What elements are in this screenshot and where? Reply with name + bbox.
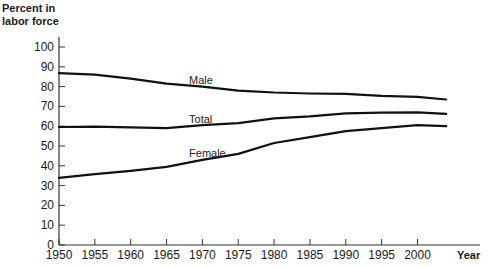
y-tick-label: 80 (24, 81, 54, 93)
x-tick-label: 1955 (75, 249, 115, 261)
x-axis-title: Year (457, 249, 480, 261)
y-tick-label: 60 (24, 120, 54, 132)
y-tick-label: 70 (24, 100, 54, 112)
y-axis-title-line-1: Percent in (2, 2, 59, 15)
series-label-female: Female (189, 148, 226, 159)
x-tick-label: 1970 (182, 249, 222, 261)
x-tick-label: 1950 (39, 249, 79, 261)
x-tick-label: 1965 (147, 249, 187, 261)
series-line-female (59, 125, 446, 178)
y-tick-label: 90 (24, 61, 54, 73)
y-tick-label: 20 (24, 199, 54, 211)
y-tick-label: 100 (24, 41, 54, 53)
x-tick-label: 1985 (290, 249, 330, 261)
y-tick-label: 40 (24, 160, 54, 172)
series-line-total (59, 112, 446, 128)
x-tick-label: 1975 (218, 249, 258, 261)
series-label-male: Male (189, 75, 213, 86)
y-tick-label: 50 (24, 140, 54, 152)
line-chart (0, 0, 490, 267)
series-line-male (59, 73, 446, 99)
x-tick-label: 1980 (254, 249, 294, 261)
x-tick-label: 1995 (362, 249, 402, 261)
y-axis-title: Percent in labor force (2, 2, 59, 28)
y-tick-label: 30 (24, 180, 54, 192)
x-tick-label: 1990 (326, 249, 366, 261)
y-axis-title-line-2: labor force (2, 15, 59, 28)
y-tick-label: 10 (24, 219, 54, 231)
x-tick-label: 2000 (398, 249, 438, 261)
x-tick-label: 1960 (111, 249, 151, 261)
series-label-total: Total (189, 114, 212, 125)
